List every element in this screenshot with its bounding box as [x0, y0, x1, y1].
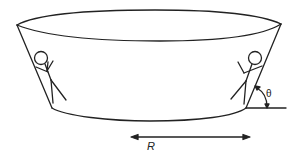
rotor-diagram: θ R: [0, 0, 300, 158]
radius-arrowhead-right: [243, 135, 250, 140]
rim-ellipse: [17, 10, 281, 41]
left-wall: [17, 25, 52, 108]
angle-label: θ: [266, 88, 272, 99]
radius-label: R: [147, 140, 155, 152]
bottom-edge: [52, 108, 246, 121]
radius-arrowhead-left: [131, 135, 138, 140]
right-rider-figure: [231, 52, 262, 105]
